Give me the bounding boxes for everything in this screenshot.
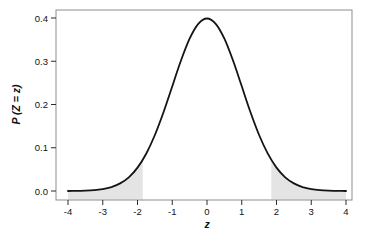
x-tick-label: 3 (309, 206, 314, 217)
y-axis-label: P (Z = z) (10, 84, 22, 125)
x-tick-label: 4 (343, 206, 348, 217)
y-tick-label: 0.1 (35, 142, 48, 153)
lower-tail-shade (68, 159, 143, 199)
figure: -4-3-2-1012340.00.10.20.30.4 P (Z = z) z (0, 0, 374, 240)
normal-curve (68, 19, 346, 192)
y-tick-label: 0.2 (35, 99, 48, 110)
plot-area: -4-3-2-1012340.00.10.20.30.4 (35, 10, 352, 217)
x-tick-label: 1 (239, 206, 244, 217)
chart-canvas: -4-3-2-1012340.00.10.20.30.4 P (Z = z) z (0, 0, 374, 240)
x-tick-label: -2 (133, 206, 141, 217)
x-tick-label: -3 (99, 206, 107, 217)
y-tick-label: 0.3 (35, 56, 48, 67)
x-tick-label: 0 (204, 206, 209, 217)
y-tick-label: 0.4 (35, 13, 48, 24)
x-tick-label: -4 (64, 206, 72, 217)
x-tick-label: 2 (274, 206, 279, 217)
x-axis-label: z (203, 218, 210, 230)
y-tick-label: 0.0 (35, 186, 48, 197)
plot-box (56, 10, 352, 200)
upper-tail-shade (271, 159, 346, 199)
x-tick-label: -1 (168, 206, 176, 217)
